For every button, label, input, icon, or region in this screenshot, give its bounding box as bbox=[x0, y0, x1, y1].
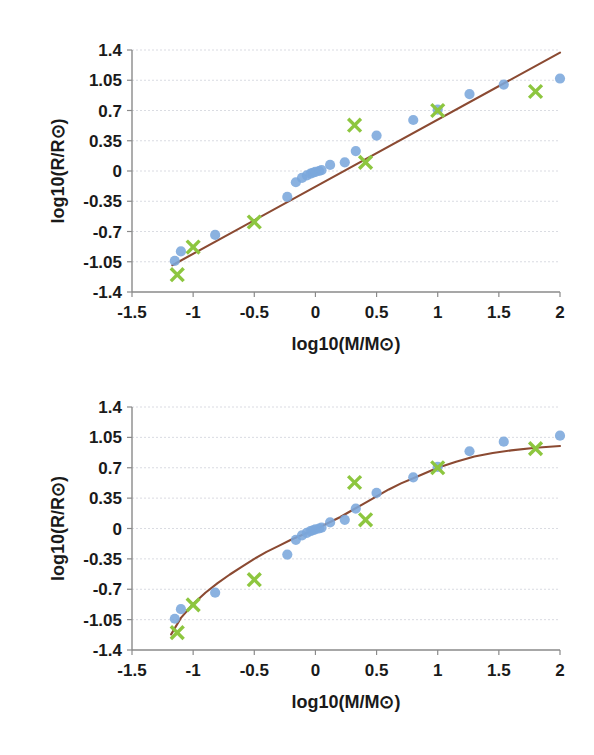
x-tick-label-1: -1 bbox=[186, 661, 201, 680]
x-axis-title: log10(M/M⊙) bbox=[292, 692, 401, 712]
data-point-model-4 bbox=[359, 513, 372, 526]
series-observed bbox=[170, 73, 565, 266]
data-point-observed-15 bbox=[371, 130, 381, 140]
data-point-observed-0 bbox=[170, 614, 180, 624]
x-tick-label-7: 2 bbox=[555, 661, 564, 680]
data-point-model-6 bbox=[529, 85, 542, 98]
y-tick-label-1: 1.05 bbox=[89, 428, 122, 447]
scatter-chart-curved-fit: 1.41.050.70.350-0.35-0.7-1.05-1.4-1.5-1-… bbox=[0, 372, 594, 755]
data-point-model-3 bbox=[348, 119, 361, 132]
data-point-observed-3 bbox=[282, 192, 292, 202]
x-tick-label-5: 1 bbox=[433, 303, 442, 322]
data-point-model-2 bbox=[248, 573, 261, 586]
data-point-observed-2 bbox=[210, 588, 220, 598]
x-tick-label-5: 1 bbox=[433, 661, 442, 680]
data-point-observed-13 bbox=[340, 515, 350, 525]
data-point-observed-14 bbox=[351, 503, 361, 513]
y-tick-label-2: 0.7 bbox=[98, 459, 122, 478]
data-point-observed-19 bbox=[499, 437, 509, 447]
y-tick-label-0: 1.4 bbox=[98, 398, 122, 417]
data-point-observed-20 bbox=[555, 431, 565, 441]
x-tick-labels-group: -1.5-1-0.500.511.52 bbox=[117, 661, 564, 680]
data-point-observed-19 bbox=[499, 79, 509, 89]
data-point-observed-12 bbox=[325, 517, 335, 527]
series-model bbox=[171, 442, 542, 639]
x-tick-label-4: 0.5 bbox=[365, 303, 389, 322]
y-tick-label-5: -0.35 bbox=[83, 192, 122, 211]
x-tick-label-2: -0.5 bbox=[240, 661, 269, 680]
x-tick-label-6: 1.5 bbox=[487, 661, 511, 680]
data-point-observed-18 bbox=[464, 446, 474, 456]
x-axis-title: log10(M/M⊙) bbox=[292, 334, 401, 354]
data-point-model-3 bbox=[348, 476, 361, 489]
data-point-observed-16 bbox=[408, 115, 418, 125]
data-point-observed-11 bbox=[316, 165, 326, 175]
y-tick-label-6: -0.7 bbox=[93, 580, 122, 599]
x-tick-label-2: -0.5 bbox=[240, 303, 269, 322]
data-point-observed-2 bbox=[210, 230, 220, 240]
y-tick-label-3: 0.35 bbox=[89, 132, 122, 151]
y-tick-labels-group: 1.41.050.70.350-0.35-0.7-1.05-1.4 bbox=[83, 398, 122, 660]
axis-group bbox=[127, 407, 560, 655]
y-tick-label-4: 0 bbox=[113, 162, 122, 181]
y-axis-title: log10(R/R⊙) bbox=[48, 118, 68, 223]
fit-line-group bbox=[171, 446, 560, 634]
x-tick-label-3: 0 bbox=[311, 661, 320, 680]
y-tick-label-6: -0.7 bbox=[93, 223, 122, 242]
series-model bbox=[171, 85, 542, 281]
data-point-model-1 bbox=[187, 241, 200, 254]
scatter-chart-linear-fit: 1.41.050.70.350-0.35-0.7-1.05-1.4-1.5-1-… bbox=[0, 0, 594, 378]
x-tick-label-6: 1.5 bbox=[487, 303, 511, 322]
data-point-observed-3 bbox=[282, 549, 292, 559]
x-tick-label-4: 0.5 bbox=[365, 661, 389, 680]
data-point-model-0 bbox=[171, 268, 184, 281]
gridlines-group bbox=[132, 50, 560, 262]
y-tick-label-2: 0.7 bbox=[98, 102, 122, 121]
data-point-observed-18 bbox=[464, 89, 474, 99]
x-tick-label-7: 2 bbox=[555, 303, 564, 322]
y-tick-label-7: -1.05 bbox=[83, 253, 122, 272]
chart-figure-top: 1.41.050.70.350-0.35-0.7-1.05-1.4-1.5-1-… bbox=[0, 0, 594, 378]
y-tick-label-8: -1.4 bbox=[93, 641, 123, 660]
curved-fit bbox=[171, 446, 560, 634]
x-tick-label-0: -1.5 bbox=[117, 661, 146, 680]
series-observed bbox=[170, 431, 565, 624]
y-tick-label-4: 0 bbox=[113, 520, 122, 539]
chart-figure-bottom: 1.41.050.70.350-0.35-0.7-1.05-1.4-1.5-1-… bbox=[0, 372, 594, 755]
data-point-observed-20 bbox=[555, 73, 565, 83]
x-tick-label-0: -1.5 bbox=[117, 303, 146, 322]
y-tick-label-7: -1.05 bbox=[83, 611, 122, 630]
data-point-observed-1 bbox=[176, 604, 186, 614]
data-point-observed-13 bbox=[340, 157, 350, 167]
data-point-observed-16 bbox=[408, 472, 418, 482]
y-tick-label-5: -0.35 bbox=[83, 550, 122, 569]
data-point-observed-14 bbox=[351, 146, 361, 156]
x-tick-labels-group: -1.5-1-0.500.511.52 bbox=[117, 303, 564, 322]
y-tick-labels-group: 1.41.050.70.350-0.35-0.7-1.05-1.4 bbox=[83, 41, 122, 302]
data-point-observed-11 bbox=[316, 523, 326, 533]
x-tick-label-3: 0 bbox=[311, 303, 320, 322]
y-axis-title: log10(R/R⊙) bbox=[48, 476, 68, 581]
y-tick-label-1: 1.05 bbox=[89, 71, 122, 90]
data-point-observed-1 bbox=[176, 246, 186, 256]
data-point-observed-0 bbox=[170, 256, 180, 266]
y-tick-label-0: 1.4 bbox=[98, 41, 122, 60]
y-tick-label-3: 0.35 bbox=[89, 489, 122, 508]
data-point-observed-15 bbox=[371, 488, 381, 498]
x-tick-label-1: -1 bbox=[186, 303, 201, 322]
data-point-model-1 bbox=[187, 598, 200, 611]
y-tick-label-8: -1.4 bbox=[93, 283, 123, 302]
data-point-observed-12 bbox=[325, 160, 335, 170]
